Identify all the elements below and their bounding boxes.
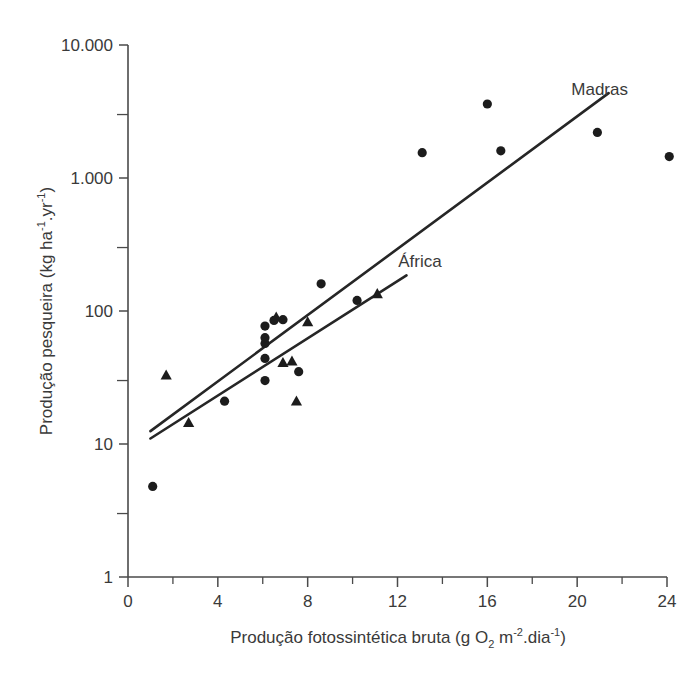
series-label-madras: Madras [571, 80, 628, 99]
x-tick-label: 0 [123, 592, 132, 611]
x-tick-label: 16 [478, 592, 497, 611]
y-axis-title: Produção pesqueira (kg ha-1.yr-1) [35, 187, 56, 435]
data-point-triangle [372, 288, 383, 298]
y-axis-major-ticks [119, 45, 128, 577]
data-point-circle [483, 99, 492, 108]
data-point-circle [496, 146, 505, 155]
data-point-triangle [286, 356, 297, 366]
data-point-circle [148, 482, 157, 491]
data-point-circle [317, 279, 326, 288]
triangle-data-points [161, 288, 383, 427]
x-tick-label: 12 [388, 592, 407, 611]
y-tick-label: 10 [94, 435, 113, 454]
x-tick-label: 4 [213, 592, 222, 611]
trend-line-frica [150, 275, 406, 438]
chart-figure: 1101001.00010.000 04812162024 MadrasÁfri… [0, 0, 699, 673]
y-tick-label: 10.000 [61, 36, 113, 55]
y-tick-label: 1 [104, 568, 113, 587]
trend-line-madras [150, 93, 608, 431]
scatter-plot-canvas: 1101001.00010.000 04812162024 MadrasÁfri… [0, 0, 699, 673]
axes [128, 45, 667, 577]
x-axis-title: Produção fotossintética bruta (g O2 m-2.… [230, 626, 566, 650]
series-annotations: MadrasÁfrica [398, 80, 628, 271]
y-axis-tick-labels: 1101001.00010.000 [61, 36, 113, 587]
data-point-circle [294, 367, 303, 376]
data-point-circle [220, 397, 229, 406]
y-axis-minor-ticks [117, 115, 128, 514]
data-point-circle [418, 148, 427, 157]
x-tick-label: 8 [303, 592, 312, 611]
x-axis-tick-labels: 04812162024 [123, 592, 676, 611]
x-tick-label: 20 [568, 592, 587, 611]
data-point-circle [665, 152, 674, 161]
data-point-circle [352, 296, 361, 305]
data-point-triangle [291, 396, 302, 406]
trend-lines [150, 93, 608, 438]
series-label-frica: África [398, 252, 442, 271]
x-tick-label: 24 [658, 592, 677, 611]
x-axis-major-ticks [128, 577, 667, 587]
data-point-triangle [183, 417, 194, 427]
circle-data-points [148, 99, 674, 491]
data-point-circle [260, 376, 269, 385]
y-tick-label: 1.000 [70, 169, 113, 188]
data-point-circle [260, 321, 269, 330]
y-tick-label: 100 [85, 302, 113, 321]
data-point-circle [260, 333, 269, 342]
data-point-circle [593, 128, 602, 137]
data-point-circle [260, 354, 269, 363]
data-point-triangle [161, 369, 172, 379]
